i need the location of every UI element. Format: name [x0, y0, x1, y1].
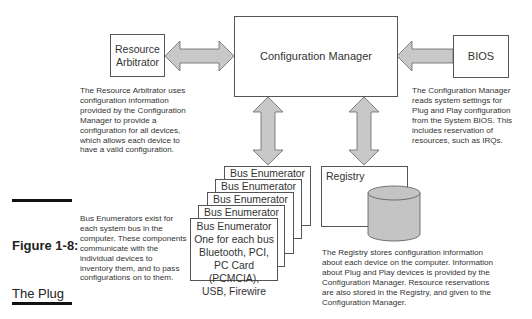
caption-rule-bottom — [12, 302, 72, 305]
registry-description: The Registry stores configuration inform… — [322, 248, 493, 307]
figure-number: Figure 1-8: — [12, 238, 78, 253]
caption-line-1: The Plug — [12, 286, 78, 302]
database-cylinder-icon — [368, 186, 420, 241]
caption-rule-top — [12, 199, 72, 202]
